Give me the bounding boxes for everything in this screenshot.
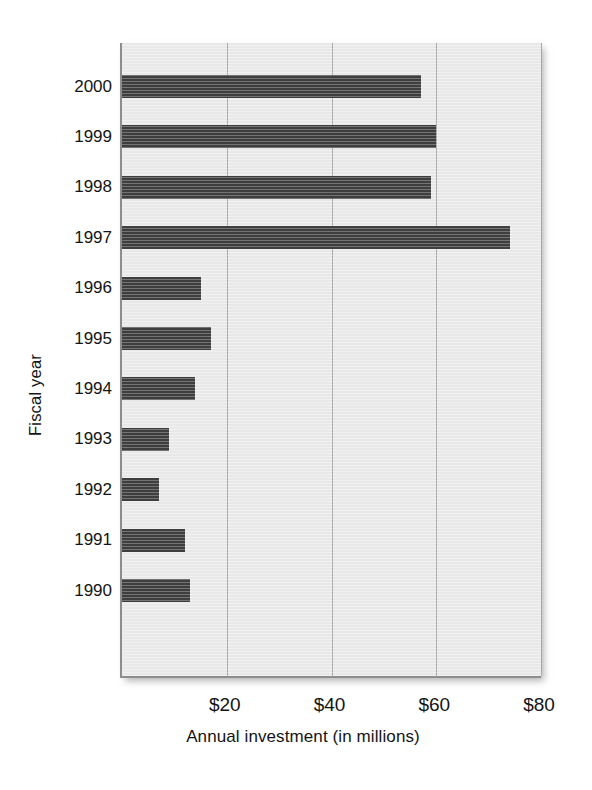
x-axis-title-label: Annual investment (in millions) [186, 727, 420, 747]
bar-1991 [122, 529, 185, 552]
y-tick-label-1991: 1991 [4, 531, 112, 548]
gridline-60 [436, 43, 437, 676]
bar-1990 [122, 579, 190, 602]
x-tick-label-80: $80 [523, 694, 555, 716]
y-tick-label-1999: 1999 [4, 128, 112, 145]
y-tick-label-1998: 1998 [4, 178, 112, 195]
x-axis-tick-labels: $20$40$60$80 [0, 694, 592, 722]
bar-1999 [122, 125, 436, 148]
bar-1995 [122, 327, 211, 350]
y-tick-label-1993: 1993 [4, 430, 112, 447]
x-axis-title: Annual investment (in millions) [0, 727, 592, 747]
bar-2000 [122, 75, 421, 98]
y-tick-label-1996: 1996 [4, 279, 112, 296]
bar-1993 [122, 428, 169, 451]
x-tick-label-40: $40 [314, 694, 346, 716]
bar-1998 [122, 176, 431, 199]
y-tick-label-1990: 1990 [4, 582, 112, 599]
x-tick-label-60: $60 [418, 694, 450, 716]
bar-1996 [122, 277, 201, 300]
y-tick-label-2000: 2000 [4, 78, 112, 95]
y-tick-label-1992: 1992 [4, 481, 112, 498]
bar-1997 [122, 226, 510, 249]
x-tick-label-20: $20 [209, 694, 241, 716]
y-tick-label-1995: 1995 [4, 330, 112, 347]
plot-area [120, 43, 541, 678]
bar-1992 [122, 478, 159, 501]
bar-1994 [122, 377, 195, 400]
bar-chart-figure: Fiscal year 2000199919981997199619951994… [0, 0, 592, 790]
y-axis-tick-labels: 2000199919981997199619951994199319921991… [0, 43, 112, 676]
y-tick-label-1994: 1994 [4, 380, 112, 397]
y-tick-label-1997: 1997 [4, 229, 112, 246]
gridline-80 [541, 43, 542, 676]
